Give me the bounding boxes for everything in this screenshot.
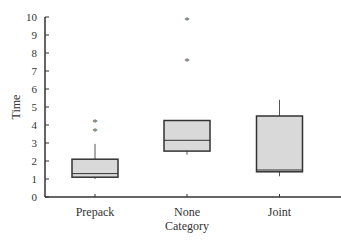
outlier-marker: *	[184, 14, 190, 26]
outlier-marker: *	[92, 116, 98, 128]
boxplot-chart: 012345678910TimeCategoryPrepack**None**J…	[0, 0, 341, 242]
y-tick-label: 8	[32, 47, 38, 59]
y-tick-label: 10	[26, 11, 38, 23]
x-tick-label-prepack: Prepack	[76, 205, 115, 219]
y-tick-label: 0	[32, 191, 38, 203]
y-tick-label: 4	[32, 119, 38, 131]
y-tick-label: 6	[32, 83, 38, 95]
y-axis-title: Time	[9, 95, 23, 120]
y-tick-label: 9	[32, 29, 38, 41]
y-tick-label: 7	[32, 65, 38, 77]
x-tick-label-joint: Joint	[268, 205, 292, 219]
x-axis-title: Category	[165, 219, 209, 233]
box-none	[164, 121, 210, 152]
y-tick-label: 2	[32, 155, 38, 167]
y-tick-label: 3	[32, 137, 38, 149]
x-tick-label-none: None	[174, 205, 200, 219]
y-tick-label: 5	[32, 101, 38, 113]
box-prepack	[72, 159, 118, 177]
box-joint	[257, 116, 303, 172]
y-tick-label: 1	[32, 173, 38, 185]
outlier-marker: *	[184, 55, 190, 67]
